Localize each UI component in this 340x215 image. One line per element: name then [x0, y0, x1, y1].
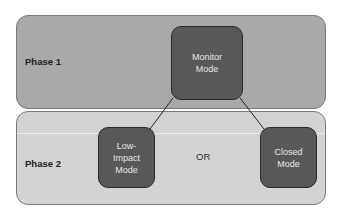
low-impact-line2: Impact — [113, 152, 140, 164]
monitor-mode-line1: Monitor — [192, 51, 222, 63]
closed-mode-line1: Closed — [274, 146, 302, 158]
monitor-mode-line2: Mode — [192, 63, 222, 75]
low-impact-line1: Low- — [113, 140, 140, 152]
low-impact-mode-node: Low- Impact Mode — [98, 127, 155, 188]
or-label: OR — [196, 151, 210, 162]
closed-mode-line2: Mode — [274, 158, 302, 170]
closed-mode-node: Closed Mode — [260, 127, 317, 188]
monitor-mode-node: Monitor Mode — [171, 26, 243, 100]
low-impact-line3: Mode — [113, 164, 140, 176]
